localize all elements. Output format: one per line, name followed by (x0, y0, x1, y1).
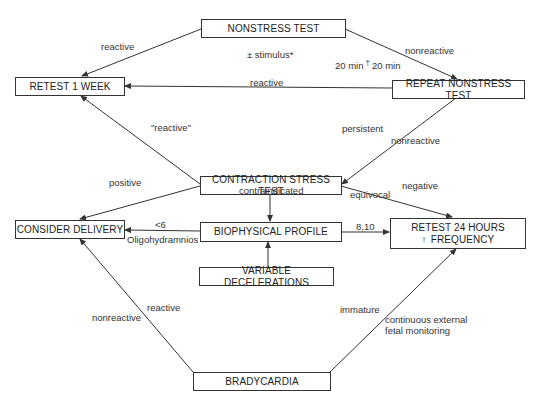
node-retest-24-hours: RETEST 24 HOURS ↑FREQUENCY (390, 218, 526, 249)
node-label-frequency: FREQUENCY (431, 234, 495, 245)
label-quoted-reactive: "reactive" (151, 122, 191, 133)
label-oligohydramnios: Oligohydramnios (127, 234, 198, 245)
label-20min-a: 20 min (335, 60, 364, 71)
label-contraindicated: contraindicated (239, 185, 303, 196)
label-immature: immature (340, 304, 380, 315)
up-arrow-icon: ↑ (422, 234, 427, 245)
node-label: BIOPHYSICAL PROFILE (214, 226, 328, 238)
node-label: REPEAT NONSTRESS TEST (393, 78, 524, 102)
edge-cst-to-retest-week (81, 96, 200, 184)
node-label: RETEST 1 WEEK (29, 81, 110, 93)
flowchart-edges (0, 0, 537, 402)
node-repeat-nonstress-test: REPEAT NONSTRESS TEST (392, 80, 525, 99)
node-biophysical-profile: BIOPHYSICAL PROFILE (200, 222, 342, 242)
node-label: NONSTRESS TEST (228, 23, 320, 35)
label-positive: positive (109, 177, 141, 188)
node-label: RETEST 24 HOURS (411, 222, 505, 234)
node-retest-1-week: RETEST 1 WEEK (15, 77, 125, 96)
node-label: BRADYCARDIA (225, 376, 298, 388)
label-stimulus: ± stimulus* (247, 49, 293, 60)
label-nonreactive: nonreactive (405, 45, 454, 56)
label-repeat-nonreactive: nonreactive (391, 135, 440, 146)
edge-bpp-to-delivery (125, 230, 200, 231)
label-20min-interval: 20 min†20 min (335, 57, 400, 71)
label-8-10: 8,10 (356, 221, 375, 232)
node-variable-decelerations: VARIABLE DECELERATIONS (199, 267, 334, 286)
node-nonstress-test: NONSTRESS TEST (201, 19, 346, 38)
node-label: VARIABLE DECELERATIONS (200, 265, 333, 289)
node-bradycardia: BRADYCARDIA (193, 372, 331, 391)
label-persistent: persistent (342, 123, 383, 134)
label-20min-b: 20 min (372, 60, 401, 71)
label-brady-nonreactive: nonreactive (92, 312, 141, 323)
node-label: CONSIDER DELIVERY (17, 224, 124, 236)
label-continuous-2: fetal monitoring (385, 325, 450, 336)
node-consider-delivery: CONSIDER DELIVERY (15, 220, 125, 239)
node-label-line2: ↑FREQUENCY (422, 234, 495, 246)
label-brady-reactive: reactive (147, 302, 180, 313)
label-negative: negative (402, 180, 438, 191)
label-equivocal: equivocal (350, 189, 390, 200)
edge-nst-to-retest-week (82, 29, 201, 76)
label-continuous-1: continuous external (385, 314, 467, 325)
edge-cst-to-delivery (80, 186, 200, 219)
label-repeat-reactive: reactive (250, 77, 283, 88)
label-lt6: <6 (155, 219, 166, 230)
dagger-footnote: † (366, 58, 370, 67)
label-reactive: reactive (101, 41, 134, 52)
fetal-testing-flowchart: NONSTRESS TEST RETEST 1 WEEK REPEAT NONS… (0, 0, 537, 402)
